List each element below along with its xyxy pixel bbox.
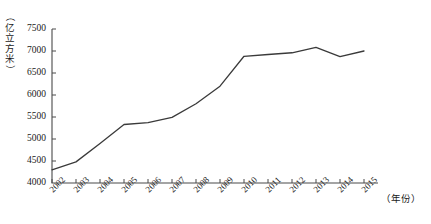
plot-area xyxy=(0,0,431,224)
tick-marks xyxy=(52,29,364,183)
data-series-line xyxy=(52,47,364,169)
line-chart: （ 亿 立 方 米 ） 4000450050005500600065007000… xyxy=(0,0,431,224)
